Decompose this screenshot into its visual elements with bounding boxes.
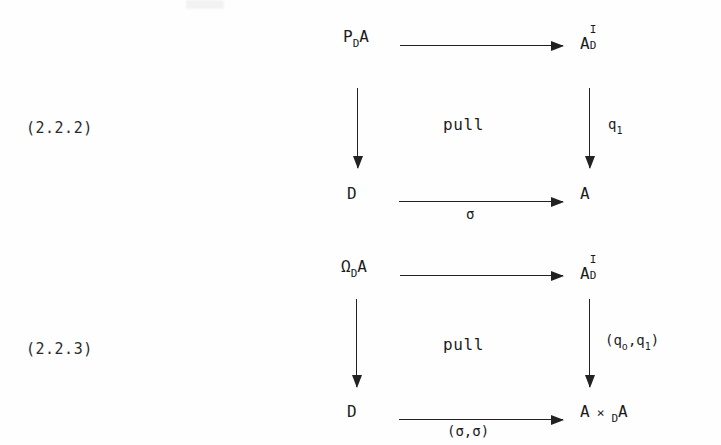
diagram2-arrow-right-label-mid: ,q	[628, 332, 645, 348]
diagram2-node-top-right-indices: I D	[590, 263, 599, 279]
diagram1-pullback-label: pull	[443, 115, 484, 134]
equation-number-2-2-2: (2.2.2)	[26, 119, 93, 137]
diagram1-node-bottom-left: D	[347, 186, 357, 202]
diagram2-arrow-bottom-head	[551, 415, 564, 425]
diagram2-arrow-top-head	[551, 271, 564, 281]
diagram1-node-top-right-base: A	[580, 34, 590, 53]
diagram1-arrow-bottom-shaft	[399, 201, 563, 202]
diagram1-arrow-top-head	[551, 41, 564, 51]
diagram2-arrow-right-label-open: (q	[605, 332, 622, 348]
diagram1-arrow-bottom	[399, 196, 563, 208]
diagram1-arrow-right	[584, 88, 596, 168]
diagram2-arrow-bottom-label: (σ,σ)	[447, 424, 489, 438]
diagram2-arrow-bottom-shaft	[399, 419, 563, 420]
diagram2-node-bottom-right-base: A	[580, 402, 590, 421]
diagram2-node-bottom-right-times: ×	[597, 405, 605, 420]
diagram2-arrow-right-label: (qo,q1)	[605, 333, 659, 352]
diagram1-arrow-left-head	[353, 156, 363, 169]
diagram2-arrow-left-shaft	[356, 299, 357, 387]
diagram2-node-bottom-left: D	[347, 404, 357, 420]
diagram2-node-bottom-right: A×DA	[580, 404, 628, 424]
diagram1-node-top-right-indices: I D	[590, 33, 599, 49]
equation-number-2-2-3: (2.2.3)	[26, 340, 93, 358]
diagram1-arrow-right-label-sub: 1	[616, 125, 622, 136]
diagram1-arrow-top-shaft	[400, 45, 563, 46]
diagram2-arrow-left-head	[352, 375, 362, 388]
diagram2-arrow-right	[584, 299, 596, 387]
diagram2-node-top-left: ΩDA	[341, 259, 367, 279]
diagram2-arrow-top-shaft	[400, 275, 563, 276]
diagram2-arrow-top	[400, 270, 563, 282]
diagram1-arrow-bottom-label: σ	[466, 207, 474, 221]
diagram2-arrow-right-shaft	[589, 299, 590, 387]
diagram2-arrow-left	[351, 299, 363, 387]
diagram1-node-top-left-base: P	[343, 27, 353, 46]
diagram1-arrow-left	[352, 88, 364, 168]
diagram1-node-top-right-sup: I	[590, 24, 597, 35]
diagram1-node-top-right: A I D	[580, 33, 599, 52]
diagram2-arrow-right-label-close: )	[651, 332, 659, 348]
diagram1-node-top-right-sub: D	[590, 40, 597, 51]
diagram2-pullback-label: pull	[443, 335, 484, 354]
diagram2-node-top-right-base: A	[580, 264, 590, 283]
diagram2-node-top-right: A I D	[580, 263, 599, 282]
diagram2-arrow-right-head	[585, 375, 595, 388]
scan-artifact-smudge	[186, 0, 224, 9]
diagram1-arrow-bottom-head	[551, 197, 564, 207]
diagram1-arrow-top	[400, 40, 563, 52]
diagram2-node-top-right-sup: I	[590, 254, 597, 265]
diagram1-node-top-left: PDA	[343, 29, 369, 49]
diagram1-node-top-left-tail: A	[359, 27, 369, 46]
diagram1-node-bottom-right: A	[580, 186, 590, 202]
diagram2-node-top-left-tail: A	[357, 257, 367, 276]
diagram1-arrow-right-label: q1	[608, 117, 622, 136]
diagram2-node-bottom-right-tail: A	[618, 402, 628, 421]
diagram1-arrow-right-head	[585, 156, 595, 169]
diagram2-node-top-left-base: Ω	[341, 257, 351, 276]
document-page: (2.2.2) PDA A I D pull q1 D σ A	[0, 0, 721, 445]
diagram2-node-top-right-sub: D	[590, 270, 597, 281]
